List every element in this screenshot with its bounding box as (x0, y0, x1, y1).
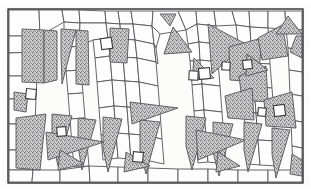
paper-texture-layer (8, 9, 303, 183)
square-hole-outline (222, 62, 231, 71)
mosaic-canvas (0, 0, 311, 191)
mosaic-tile-shaded (76, 30, 89, 85)
square-hole (273, 104, 285, 116)
mosaic-tile-shaded (22, 29, 44, 83)
mosaic-tile-plain (118, 11, 133, 24)
square-hole (243, 60, 253, 70)
square-hole (133, 152, 144, 163)
square-hole (100, 37, 112, 49)
square-hole (189, 71, 198, 80)
square-hole-outline (258, 108, 267, 117)
mosaic-tile-plain (148, 168, 178, 182)
mosaic-puzzle-image (0, 0, 311, 191)
square-hole-outline (273, 104, 285, 116)
mosaic-tile-plain (32, 170, 60, 182)
square-hole (57, 127, 67, 137)
mosaic-tile-plain (79, 10, 106, 23)
square-hole-outline (199, 68, 211, 80)
mosaic-tile-plain (97, 80, 114, 108)
square-hole-outline (189, 71, 198, 80)
mosaic-tile-plain (238, 170, 268, 182)
mosaic-tile-plain (196, 11, 216, 26)
square-hole-outline (26, 89, 37, 100)
square-hole (26, 89, 37, 100)
square-hole (199, 68, 211, 80)
mosaic-tile-plain (202, 84, 222, 112)
mosaic-tile-plain (95, 56, 112, 82)
mosaic-tile-plain (249, 11, 268, 28)
mosaic-tile-plain (105, 11, 120, 24)
square-hole-outline (57, 127, 67, 137)
mosaic-tile-plain (68, 93, 85, 119)
mosaic-tile-plain (89, 166, 118, 182)
mosaic-tile-plain (62, 10, 80, 23)
square-hole-outline (243, 60, 253, 70)
mosaic-tile-plain (208, 169, 238, 182)
mosaic-tile-shaded (44, 30, 57, 83)
mosaic-tile-plain (9, 170, 33, 182)
mosaic-tile-plain (178, 169, 208, 182)
square-hole (258, 108, 267, 117)
square-hole-outline (133, 152, 144, 163)
square-hole (222, 62, 231, 71)
mosaic-tile-plain (112, 80, 127, 107)
square-hole-outline (100, 37, 112, 49)
